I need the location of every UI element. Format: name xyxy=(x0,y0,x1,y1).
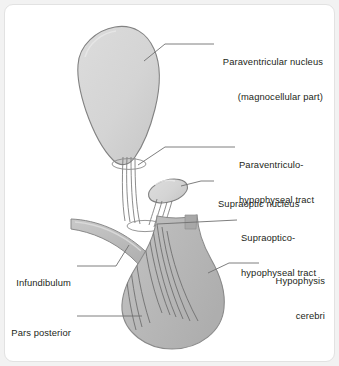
paraventriculo-hypophyseal-fibers xyxy=(122,157,140,224)
label-supraoptico-hypophyseal-tract-line1: Supraoptico- xyxy=(241,232,335,244)
label-paraventriculo-hypophyseal-tract-line1: Paraventriculo- xyxy=(239,159,335,171)
label-paraventricular-nucleus: Paraventricular nucleus (magnocellular p… xyxy=(101,33,323,126)
label-hypophysis-cerebri-line1: Hypophysis xyxy=(243,275,325,287)
label-pars-posterior: Pars posterior xyxy=(7,304,71,362)
figure-panel: Paraventricular nucleus (magnocellular p… xyxy=(4,4,335,362)
supraoptic-nucleus-shape xyxy=(146,175,191,207)
label-infundibulum-line1: Infundibulum xyxy=(7,277,71,289)
leader-paraventriculo-tract xyxy=(138,147,235,165)
hypophysis-shape xyxy=(122,215,224,349)
label-paraventricular-nucleus-line1: Paraventricular nucleus xyxy=(101,56,323,68)
label-paraventricular-nucleus-line2: (magnocellular part) xyxy=(101,91,323,103)
label-hypophysis-cerebri-line2: cerebri xyxy=(243,310,325,322)
label-hypophysis-cerebri: Hypophysis cerebri xyxy=(243,252,325,345)
figure-root: Paraventricular nucleus (magnocellular p… xyxy=(0,0,339,366)
label-pars-posterior-line1: Pars posterior xyxy=(7,327,71,339)
